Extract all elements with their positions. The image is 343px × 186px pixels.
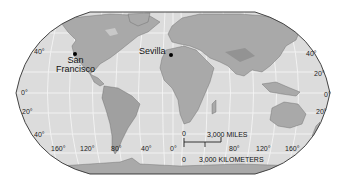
scale-km-label: 3,000 KILOMETERS xyxy=(199,156,264,163)
lon-label-80w: 80° xyxy=(111,145,122,152)
lon-label-160e: 160° xyxy=(285,145,299,152)
city-label-san-francisco: San Francisco xyxy=(56,56,95,75)
lat-label-left-40s: 40° xyxy=(34,131,45,138)
lat-label-right-20s: 20° xyxy=(316,108,327,115)
lat-label-left-0: 0° xyxy=(21,89,28,96)
scale-miles-label: 3,000 MILES xyxy=(207,131,247,138)
world-map: San Francisco Sevilla 40° 0° 20° 40° 40°… xyxy=(0,0,343,186)
map-canvas xyxy=(0,0,343,186)
city-marker-sevilla[interactable] xyxy=(169,53,173,57)
lat-label-left-20s: 20° xyxy=(22,108,33,115)
lat-label-right-0: 0° xyxy=(324,91,331,98)
city-label-sevilla: Sevilla xyxy=(139,47,166,56)
lat-label-left-40n: 40° xyxy=(34,48,45,55)
lon-label-0: 0° xyxy=(170,145,177,152)
lat-label-right-40n: 40° xyxy=(306,50,317,57)
scale-bottom-zero: 0 xyxy=(182,156,186,163)
lon-label-160w: 160° xyxy=(51,145,65,152)
lat-label-right-20n: 20° xyxy=(314,70,325,77)
lon-label-40w: 40° xyxy=(141,145,152,152)
lon-label-80e: 80° xyxy=(229,145,240,152)
lon-label-120e: 120° xyxy=(256,145,270,152)
lon-label-120w: 120° xyxy=(80,145,94,152)
city-name-line2: Francisco xyxy=(56,65,95,74)
city-name: Sevilla xyxy=(139,46,166,56)
scale-top-zero: 0 xyxy=(182,130,186,137)
